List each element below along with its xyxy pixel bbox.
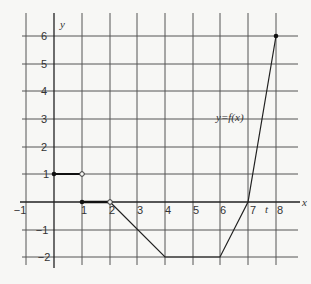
x-tick-1: 1 [81,204,87,216]
x-tick-2: 2 [109,204,115,216]
y-tick-1: 1 [43,168,49,180]
y-tick-6: 6 [41,30,47,42]
y-tick-3: 3 [41,113,47,125]
x-axis-label: x [301,196,307,208]
y-tick-5: 5 [41,58,47,70]
closed-point-8-6 [274,34,279,39]
x-tick-3: 3 [137,204,143,216]
x-tick-4: 4 [165,204,171,216]
y-tick-4: 4 [41,85,47,97]
x-tick-6: 6 [220,204,226,216]
closed-point-0-1 [52,172,57,177]
horizontal-grid-lines [22,36,298,257]
x-tick-neg1: −1 [14,204,27,216]
function-label: y=f(x) [215,111,244,124]
y-axis-label: y [59,18,65,30]
t-label: t [265,203,269,215]
function-graph: 6 5 4 3 2 1 −1 −2 −1 1 2 3 4 5 6 7 8 y x… [0,0,311,284]
open-point-1-1 [80,172,85,177]
x-tick-8: 8 [277,204,283,216]
vertical-grid-lines [26,13,276,265]
y-tick-neg1: −1 [36,224,49,236]
y-tick-neg2: −2 [38,251,51,263]
x-tick-5: 5 [193,204,199,216]
y-tick-2: 2 [41,141,47,153]
x-tick-7: 7 [250,204,256,216]
